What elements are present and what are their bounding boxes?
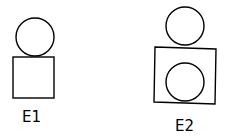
e1-circle — [16, 18, 54, 56]
diagram-canvas: E1 E2 — [0, 0, 225, 137]
e2-square — [154, 47, 216, 104]
e2-top-circle — [166, 7, 204, 45]
e2-inner-circle — [166, 63, 204, 101]
e1-label: E1 — [22, 108, 41, 126]
figure-e2: E2 — [154, 7, 216, 135]
e1-square — [13, 57, 54, 98]
figure-e1: E1 — [13, 18, 54, 126]
e2-label: E2 — [175, 117, 194, 135]
